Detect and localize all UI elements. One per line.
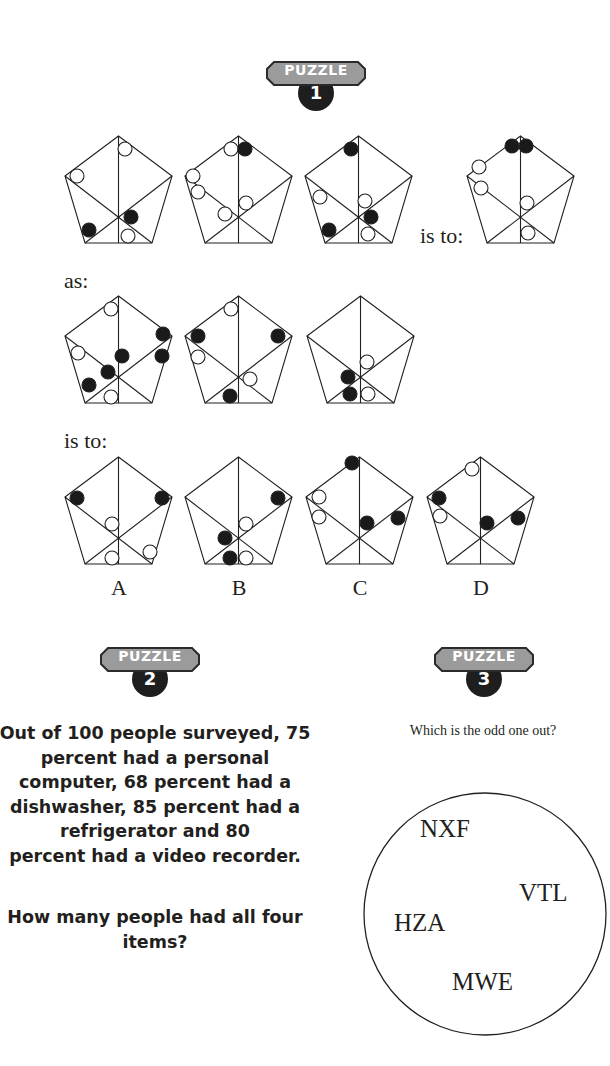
open-dot-icon [243, 372, 257, 386]
filled-dot-icon [115, 349, 129, 363]
open-dot-icon [465, 462, 479, 476]
filled-dot-icon [480, 516, 494, 530]
filled-dot-icon [432, 491, 446, 505]
open-dot-icon [104, 390, 118, 404]
option-pentagon-b [185, 457, 293, 565]
open-dot-icon [118, 142, 132, 156]
statement-line: percent had a video recorder. [0, 844, 315, 869]
open-dot-icon [70, 169, 84, 183]
question-line: items? [0, 930, 315, 955]
open-dot-icon [105, 517, 119, 531]
code-vtl: VTL [519, 879, 568, 907]
option-pentagon-c [306, 457, 414, 565]
open-dot-icon [472, 160, 486, 174]
badge-label: PUZZLE [266, 62, 366, 78]
badge-number: 2 [100, 668, 200, 689]
open-dot-icon [433, 509, 447, 523]
open-dot-icon [224, 142, 238, 156]
code-nxf: NXF [420, 815, 470, 843]
filled-dot-icon [345, 456, 359, 470]
premise-pentagon-2 [185, 136, 293, 244]
puzzle-3-question: Which is the odd one out? [348, 723, 610, 739]
badge-label: PUZZLE [100, 648, 200, 664]
open-dot-icon [361, 227, 375, 241]
open-dot-icon [224, 302, 238, 316]
statement-line: percent had a personal [0, 746, 315, 771]
filled-dot-icon [155, 491, 169, 505]
statement-line: computer, 68 percent had a [0, 770, 315, 795]
analogy-pentagon-3 [307, 296, 415, 404]
statement-line: refrigerator and 80 [0, 819, 315, 844]
question-line: How many people had all four [0, 905, 315, 930]
filled-dot-icon [271, 329, 285, 343]
open-dot-icon [104, 302, 118, 316]
option-label-b[interactable]: B [219, 575, 259, 601]
option-label-a[interactable]: A [99, 575, 139, 601]
open-dot-icon [521, 226, 535, 240]
filled-dot-icon [322, 223, 336, 237]
filled-dot-icon [505, 139, 519, 153]
option-label-d[interactable]: D [461, 575, 501, 601]
filled-dot-icon [70, 491, 84, 505]
filled-dot-icon [82, 378, 96, 392]
badge-label: PUZZLE [434, 648, 534, 664]
statement-line: dishwasher, 85 percent had a [0, 795, 315, 820]
filled-dot-icon [191, 329, 205, 343]
filled-dot-icon [82, 223, 96, 237]
filled-dot-icon [101, 365, 115, 379]
open-dot-icon [71, 346, 85, 360]
open-dot-icon [312, 490, 326, 504]
filled-dot-icon [271, 491, 285, 505]
open-dot-icon [191, 350, 205, 364]
open-dot-icon [358, 194, 372, 208]
filled-dot-icon [343, 387, 357, 401]
option-pentagon-a [65, 457, 173, 565]
premise-pentagon-1 [65, 136, 173, 244]
filled-dot-icon [364, 210, 378, 224]
open-dot-icon [186, 169, 200, 183]
open-dot-icon [191, 185, 205, 199]
open-dot-icon [105, 551, 119, 565]
premise-pentagon-4 [467, 136, 575, 244]
open-dot-icon [143, 545, 157, 559]
option-label-c[interactable]: C [340, 575, 380, 601]
filled-dot-icon [519, 139, 533, 153]
open-dot-icon [239, 517, 253, 531]
open-dot-icon [218, 207, 232, 221]
open-dot-icon [361, 387, 375, 401]
puzzle-2-badge: PUZZLE 2 [100, 647, 200, 699]
open-dot-icon [520, 196, 534, 210]
badge-number: 1 [266, 82, 366, 103]
badge-number: 3 [434, 668, 534, 689]
open-dot-icon [313, 190, 327, 204]
open-dot-icon [360, 355, 374, 369]
is-to-label: is to: [420, 223, 463, 249]
filled-dot-icon [511, 511, 525, 525]
premise-pentagon-3 [305, 136, 413, 244]
filled-dot-icon [391, 511, 405, 525]
puzzle-1-badge: PUZZLE 1 [266, 61, 366, 113]
filled-dot-icon [218, 531, 232, 545]
puzzle-2-question: How many people had all four items? [0, 905, 315, 954]
open-dot-icon [239, 196, 253, 210]
filled-dot-icon [223, 551, 237, 565]
code-hza: HZA [394, 909, 445, 937]
puzzle-2-statement: Out of 100 people surveyed, 75 percent h… [0, 721, 315, 868]
filled-dot-icon [344, 142, 358, 156]
filled-dot-icon [223, 389, 237, 403]
as-label: as: [64, 268, 88, 294]
open-dot-icon [312, 510, 326, 524]
filled-dot-icon [156, 327, 170, 341]
filled-dot-icon [360, 516, 374, 530]
open-dot-icon [121, 229, 135, 243]
open-dot-icon [239, 551, 253, 565]
filled-dot-icon [238, 142, 252, 156]
option-pentagon-d [427, 457, 535, 565]
code-mwe: MWE [452, 968, 513, 996]
filled-dot-icon [155, 349, 169, 363]
filled-dot-icon [124, 210, 138, 224]
analogy-pentagon-1 [65, 296, 173, 404]
statement-line: Out of 100 people surveyed, 75 [0, 721, 315, 746]
puzzle-3-badge: PUZZLE 3 [434, 647, 534, 699]
analogy-pentagon-2 [185, 296, 293, 404]
